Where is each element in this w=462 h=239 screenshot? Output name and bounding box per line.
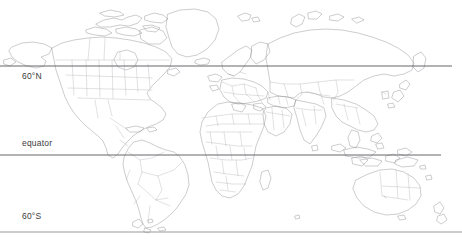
latitude-label-60n: 60°N [22, 71, 42, 81]
map-canvas [0, 0, 462, 239]
latitude-label-60s: 60°S [22, 211, 41, 221]
latitude-label-equator: equator [22, 138, 52, 148]
world-map: 60°N equator 60°S [0, 0, 462, 239]
map-background [0, 0, 462, 239]
